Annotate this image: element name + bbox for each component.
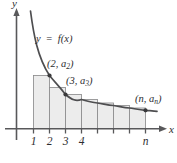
- curve-label-y: y: [35, 33, 41, 44]
- point-label-3-close: ): [88, 75, 93, 87]
- svg-text:y = f(x): y = f(x): [35, 33, 73, 45]
- svg-text:(n, an): (n, an): [135, 93, 162, 106]
- tick-label-2: 2: [47, 135, 53, 147]
- bar-7: [130, 108, 146, 129]
- y-axis-label: y: [11, 0, 17, 9]
- y-axis-arrow-icon: [13, 8, 19, 16]
- point-label-2-open: (2,: [47, 58, 61, 70]
- bar-5: [98, 103, 114, 129]
- bar-2: [50, 88, 66, 129]
- bar-6: [114, 106, 130, 129]
- tick-label-3: 3: [62, 135, 69, 147]
- math-figure: y x y = f(x) (2, a2) (3, a3) (n, an): [0, 0, 177, 163]
- x-tick-labels: 1 2 3 4 n: [31, 135, 149, 147]
- tick-label-4: 4: [79, 135, 85, 147]
- curve-label: y = f(x): [35, 33, 73, 45]
- point-label-2: (2, a2): [47, 58, 74, 71]
- point-label-3: (3, a3): [66, 75, 93, 88]
- point-label-3-open: (3,: [66, 75, 80, 87]
- point-label-n: (n, an): [135, 93, 162, 106]
- bar-4: [82, 100, 98, 129]
- bar-1: [34, 76, 50, 129]
- tick-label-n: n: [143, 135, 149, 147]
- point-label-2-close: ): [69, 58, 74, 70]
- point-dot-2: [47, 73, 51, 77]
- y-axis: [13, 8, 19, 140]
- curve-label-equals: =: [46, 33, 52, 44]
- point-dot-n: [143, 108, 147, 112]
- svg-text:(3, a3): (3, a3): [66, 75, 93, 88]
- point-label-n-open: (n,: [135, 93, 149, 105]
- curve-label-fx: f(x): [58, 33, 73, 45]
- point-label-n-close: ): [157, 93, 162, 105]
- x-axis-label: x: [168, 123, 174, 135]
- point-dot-3: [63, 92, 67, 96]
- svg-text:(2, a2): (2, a2): [47, 58, 74, 71]
- tick-label-1: 1: [31, 135, 37, 147]
- x-axis-arrow-icon: [159, 126, 167, 132]
- figure-canvas: y x y = f(x) (2, a2) (3, a3) (n, an): [0, 0, 177, 163]
